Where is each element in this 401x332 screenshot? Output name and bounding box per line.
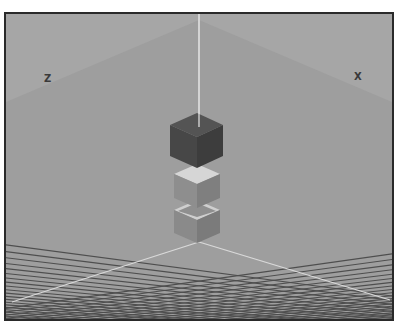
3d-viewport[interactable]: Z X <box>4 12 394 321</box>
axis-label-z: Z <box>44 74 51 84</box>
axis-label-x: X <box>354 72 362 82</box>
scene-canvas[interactable] <box>6 14 392 319</box>
